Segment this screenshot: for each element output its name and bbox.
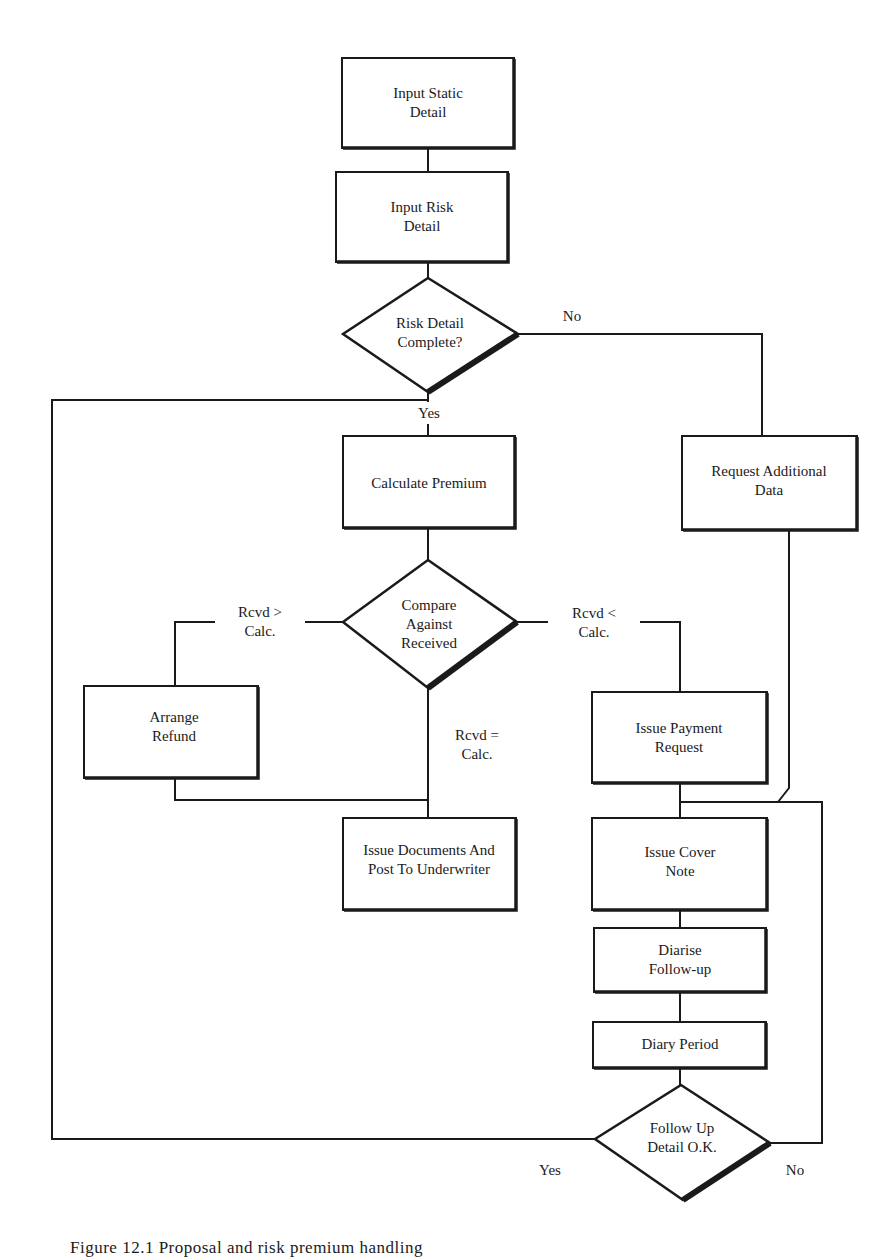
connector-compare-gt-b <box>175 622 215 686</box>
edge-label-rcvd-eq: Rcvd = Calc. <box>455 726 499 764</box>
node-label-line: Received <box>401 634 457 653</box>
figure-caption: Figure 12.1 Proposal and risk premium ha… <box>70 1238 423 1258</box>
node-diarise: Diarise Follow-up <box>649 941 712 979</box>
node-label-line: Detail <box>391 217 454 236</box>
connector-no-request <box>518 334 762 436</box>
node-arrange-refund: Arrange Refund <box>149 708 198 746</box>
node-label-line: Complete? <box>396 333 464 352</box>
edge-label-line: Rcvd = <box>455 726 499 745</box>
node-label-line: Arrange <box>149 708 198 727</box>
node-label-line: Diary Period <box>641 1035 718 1054</box>
connector-compare-lt-b <box>640 622 680 692</box>
node-label-line: Issue Documents And <box>363 841 495 860</box>
edge-label-line: Rcvd > <box>238 603 282 622</box>
node-calc-premium: Calculate Premium <box>371 474 486 493</box>
node-input-static: Input Static Detail <box>393 84 463 122</box>
node-label-line: Follow-up <box>649 960 712 979</box>
node-label-line: Input Static <box>393 84 463 103</box>
node-risk-complete: Risk Detail Complete? <box>396 314 464 352</box>
edge-label-rcvd-lt: Rcvd < Calc. <box>572 604 616 642</box>
edge-label-risk-yes: Yes <box>418 404 440 423</box>
node-input-risk: Input Risk Detail <box>391 198 454 236</box>
node-issue-documents: Issue Documents And Post To Underwriter <box>363 841 495 879</box>
node-label-line: Issue Payment <box>635 719 722 738</box>
node-label-line: Follow Up <box>647 1119 717 1138</box>
edge-label-line: Calc. <box>238 622 282 641</box>
node-diary-period: Diary Period <box>641 1035 718 1054</box>
node-label-line: Compare <box>401 596 457 615</box>
node-label-line: Request <box>635 738 722 757</box>
node-label-line: Detail <box>393 103 463 122</box>
edge-label-line: Calc. <box>572 623 616 642</box>
node-label-line: Input Risk <box>391 198 454 217</box>
node-label-line: Request Additional <box>711 462 826 481</box>
node-label-line: Detail O.K. <box>647 1138 717 1157</box>
edge-label-followup-no: No <box>786 1161 804 1180</box>
node-label-line: Note <box>644 862 715 881</box>
connector-request-cover <box>778 530 789 802</box>
edge-label-line: Calc. <box>455 745 499 764</box>
node-label-line: Against <box>401 615 457 634</box>
node-request-additional: Request Additional Data <box>711 462 826 500</box>
node-label-line: Issue Cover <box>644 843 715 862</box>
edge-label-line: Rcvd < <box>572 604 616 623</box>
node-issue-cover: Issue Cover Note <box>644 843 715 881</box>
node-label-line: Risk Detail <box>396 314 464 333</box>
node-label-line: Refund <box>149 727 198 746</box>
edge-label-followup-yes: Yes <box>539 1161 561 1180</box>
node-label-line: Post To Underwriter <box>363 860 495 879</box>
node-label-line: Diarise <box>649 941 712 960</box>
node-label-line: Data <box>711 481 826 500</box>
connector-refund-docs <box>175 778 428 800</box>
node-followup-ok: Follow Up Detail O.K. <box>647 1119 717 1157</box>
node-label-line: Calculate Premium <box>371 474 486 493</box>
node-compare: Compare Against Received <box>401 596 457 653</box>
edge-label-rcvd-gt: Rcvd > Calc. <box>238 603 282 641</box>
edge-label-risk-no: No <box>563 307 581 326</box>
node-issue-payment: Issue Payment Request <box>635 719 722 757</box>
